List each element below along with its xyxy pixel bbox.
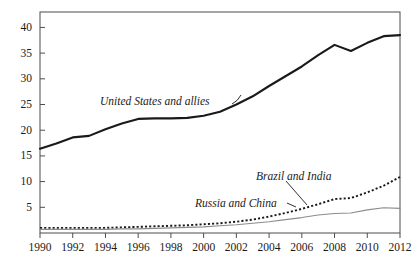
y-tick-label: 40 — [6, 21, 32, 33]
y-tick-label: 30 — [6, 72, 32, 84]
y-tick-label: 25 — [6, 98, 32, 110]
annotation-leader-lines — [232, 95, 307, 207]
y-tick-label: 15 — [6, 149, 32, 161]
y-tick-label: 20 — [6, 124, 32, 136]
y-tick-label: 10 — [6, 175, 32, 187]
brazil-india-annotation: Brazil and India — [256, 170, 331, 182]
y-tick-label: 5 — [6, 201, 32, 213]
y-tick-label: 35 — [6, 47, 32, 59]
series-line-0 — [40, 35, 400, 149]
series-line-2 — [40, 208, 400, 230]
line-chart: 510152025303540 199019921994199619982000… — [0, 0, 418, 260]
x-tick-label: 2012 — [380, 241, 418, 253]
us-allies-annotation: United States and allies — [100, 95, 210, 107]
plot-area — [0, 0, 418, 260]
russia-china-annotation: Russia and China — [195, 197, 277, 209]
